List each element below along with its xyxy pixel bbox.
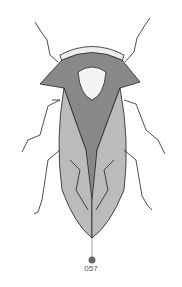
insect-illustration	[0, 0, 182, 287]
front-left-leg	[22, 100, 60, 152]
front-right-leg	[124, 100, 165, 154]
hind-left-leg	[34, 150, 60, 214]
callout-dot	[89, 257, 96, 264]
right-antenna	[125, 18, 150, 62]
hind-right-leg	[124, 150, 152, 210]
callout-label: 057	[80, 264, 102, 273]
left-antenna	[35, 22, 58, 62]
